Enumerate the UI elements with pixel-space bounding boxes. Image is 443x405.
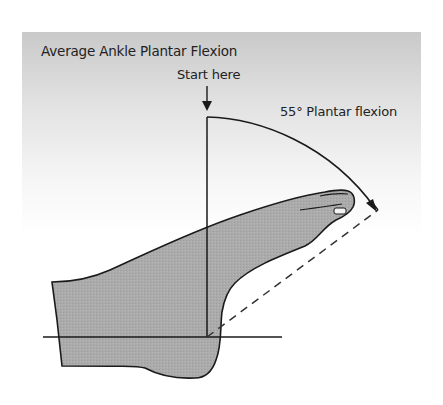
plantar-flexion-label: 55° Plantar flexion (280, 104, 397, 119)
figure-title: Average Ankle Plantar Flexion (41, 43, 237, 59)
start-here-label: Start here (177, 67, 240, 82)
foot-silhouette (52, 190, 354, 378)
down-arrow-icon (202, 101, 212, 111)
toenail (334, 208, 346, 214)
plantar-flexion-diagram (0, 0, 443, 405)
